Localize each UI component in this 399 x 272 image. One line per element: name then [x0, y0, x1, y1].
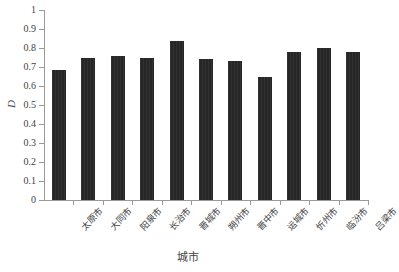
- x-axis-category-label: 长治市: [167, 206, 193, 232]
- x-axis-tick: [309, 200, 310, 205]
- y-axis-tick-label: 0.1: [2, 176, 36, 186]
- y-axis-tick: [39, 200, 45, 201]
- x-axis-title: 城市: [0, 248, 376, 264]
- y-axis-tick-label: 0.4: [2, 119, 36, 129]
- y-axis-tick-label: 0.8: [2, 43, 36, 53]
- y-axis-tick-label: 0: [2, 195, 36, 205]
- bar: [140, 58, 154, 200]
- x-axis-category-label: 朔州市: [226, 206, 252, 232]
- x-axis-category-label: 吕梁市: [373, 206, 399, 232]
- bar: [170, 41, 184, 200]
- x-axis-tick: [73, 200, 74, 205]
- x-axis-tick: [162, 200, 163, 205]
- bar: [52, 70, 66, 200]
- y-axis-tick-label: 1: [2, 5, 36, 15]
- x-axis-tick: [250, 200, 251, 205]
- x-axis-tick: [103, 200, 104, 205]
- bar: [81, 58, 95, 200]
- y-axis-tick-label: 0.2: [2, 157, 36, 167]
- bar: [258, 77, 272, 200]
- bar: [111, 56, 125, 200]
- y-axis-tick-label: 0.6: [2, 81, 36, 91]
- bar: [317, 48, 331, 200]
- bar: [199, 59, 213, 200]
- x-axis-tick: [280, 200, 281, 205]
- x-axis-tick: [191, 200, 192, 205]
- bar: [228, 61, 242, 200]
- plot-area: [44, 10, 368, 200]
- bar: [287, 52, 301, 200]
- x-axis-category-label: 太原市: [79, 206, 105, 232]
- x-axis-tick: [339, 200, 340, 205]
- x-axis-tick: [132, 200, 133, 205]
- x-axis-category-label: 大同市: [108, 206, 134, 232]
- x-axis-category-label: 忻州市: [314, 206, 340, 232]
- x-axis-category-label: 临汾市: [344, 206, 370, 232]
- x-axis-tick: [368, 200, 369, 205]
- x-axis-tick: [221, 200, 222, 205]
- x-axis-category-label: 晋城市: [196, 206, 222, 232]
- x-axis-category-label: 晋中市: [255, 206, 281, 232]
- bar: [346, 52, 360, 200]
- y-axis-tick-label: 0.3: [2, 138, 36, 148]
- x-axis-category-label: 阳泉市: [138, 206, 164, 232]
- y-axis-tick-label: 0.7: [2, 62, 36, 72]
- y-axis-tick-label: 0.5: [2, 100, 36, 110]
- x-axis-category-label: 运城市: [285, 206, 311, 232]
- x-axis-line: [44, 200, 369, 201]
- y-axis-tick-label: 0.9: [2, 24, 36, 34]
